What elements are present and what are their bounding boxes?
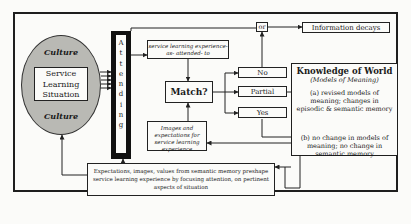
attending-bar: A t t e n d i n g bbox=[111, 31, 131, 159]
culture-label-top: Culture bbox=[44, 47, 78, 57]
attending-letter: t bbox=[116, 48, 126, 58]
knowledge-subtitle: (Models of Meaning) bbox=[292, 76, 397, 84]
attending-letter: e bbox=[116, 69, 126, 79]
attending-letter: t bbox=[116, 59, 126, 69]
expectations-box: Expectations, images, values from semant… bbox=[87, 163, 275, 196]
images-expectations-box: Images and expectations for service lear… bbox=[147, 121, 207, 151]
attending-letter: A bbox=[116, 38, 126, 48]
service-experience-box: service learning experience-as- attended… bbox=[147, 40, 229, 59]
knowledge-title: Knowledge of World bbox=[292, 66, 397, 76]
match-box: Match? bbox=[165, 81, 213, 103]
option-yes: Yes bbox=[238, 107, 287, 118]
option-partial: Partial bbox=[238, 86, 287, 97]
knowledge-of-world-box: Knowledge of World (Models of Meaning) (… bbox=[291, 63, 398, 156]
attending-letter: n bbox=[116, 79, 126, 89]
attending-letter: d bbox=[116, 89, 126, 99]
attending-label: A t t e n d i n g bbox=[116, 35, 126, 153]
attending-letter: i bbox=[116, 100, 126, 110]
attending-letter: g bbox=[116, 120, 126, 130]
service-learning-situation-box: Service Learning Situation bbox=[34, 67, 88, 101]
or-box: or bbox=[256, 22, 268, 32]
culture-label-bottom: Culture bbox=[44, 111, 78, 121]
outcome-b: (b) no change in models of meaning; no c… bbox=[292, 134, 397, 159]
option-no: No bbox=[238, 67, 287, 78]
attending-letter: n bbox=[116, 110, 126, 120]
information-decays-box: Information decays bbox=[302, 22, 390, 33]
outcome-a: (a) revised models of meaning; changes i… bbox=[292, 89, 397, 114]
